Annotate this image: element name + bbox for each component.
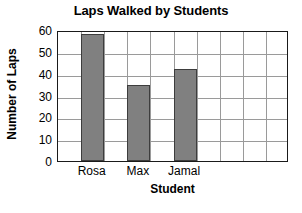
x-axis-title: Student (57, 182, 288, 196)
plot-area (57, 31, 288, 162)
y-axis-tick-label: 30 (22, 91, 52, 103)
bar (81, 34, 104, 161)
bar-chart: Laps Walked by Students Number of Laps 0… (0, 0, 302, 213)
y-axis-tick-label: 20 (22, 112, 52, 124)
y-axis-tick-label: 50 (22, 47, 52, 59)
y-axis-tick-label: 40 (22, 69, 52, 81)
bar (127, 85, 150, 161)
y-axis-tick-label: 0 (22, 156, 52, 168)
x-axis-tick-labels: RosaMaxJamal (57, 164, 288, 180)
x-axis-tick-label: Rosa (78, 164, 106, 178)
y-axis-title-wrap: Number of Laps (4, 24, 20, 164)
y-axis-title: Number of Laps (5, 48, 19, 139)
x-axis-tick-label: Max (127, 164, 150, 178)
bar-series (58, 32, 287, 161)
chart-title: Laps Walked by Students (0, 3, 302, 18)
x-axis-tick-label: Jamal (168, 164, 200, 178)
y-axis-tick-label: 60 (22, 25, 52, 37)
y-axis-tick-labels: 0102030405060 (22, 31, 52, 162)
y-axis-tick-label: 10 (22, 134, 52, 146)
bar (174, 69, 197, 161)
